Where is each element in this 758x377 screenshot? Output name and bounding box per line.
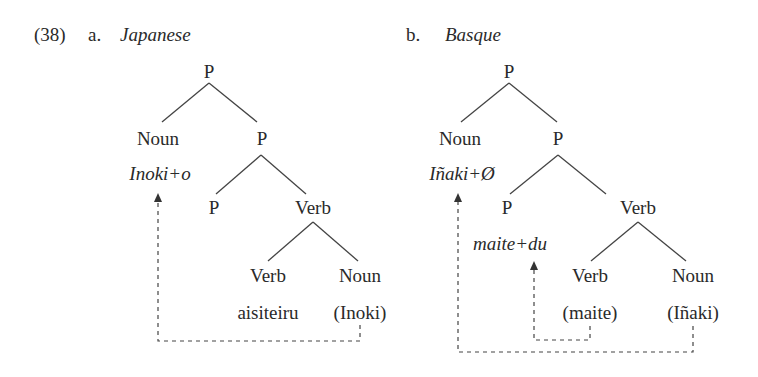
tree-b-noun2: Noun	[672, 266, 714, 285]
tree-a-noun-form: Inoki+o	[129, 164, 190, 183]
tree-b-noun-form: Iñaki+Ø	[429, 164, 495, 183]
tree-b-verb2-form: (maite)	[563, 303, 618, 322]
example-number: (38)	[34, 25, 66, 44]
tree-b-verb: Verb	[620, 198, 656, 217]
tree-a-root: P	[204, 62, 215, 81]
tree-a-noun2: Noun	[339, 266, 381, 285]
tree-b-root: P	[504, 62, 515, 81]
tree-a-noun2-form: (Inoki)	[334, 303, 387, 322]
tree-b-label: b.	[406, 25, 420, 44]
tree-a-language: Japanese	[120, 25, 191, 44]
tree-a-verb2: Verb	[250, 266, 286, 285]
tree-a-label: a.	[88, 25, 101, 44]
tree-b-noun2-form: (Iñaki)	[667, 303, 719, 322]
tree-a-verb: Verb	[295, 198, 331, 217]
tree-a-verb2-form: aisiteiru	[237, 303, 298, 322]
tree-b-p3-form: maite+du	[473, 234, 547, 253]
tree-b-p3: P	[502, 198, 513, 217]
tree-b-language: Basque	[445, 25, 501, 44]
tree-b-p2: P	[553, 129, 564, 148]
tree-a-noun: Noun	[137, 129, 179, 148]
tree-a-p3: P	[209, 198, 220, 217]
tree-b-verb2: Verb	[572, 266, 608, 285]
tree-b-noun: Noun	[439, 129, 481, 148]
tree-a-p2: P	[257, 129, 268, 148]
